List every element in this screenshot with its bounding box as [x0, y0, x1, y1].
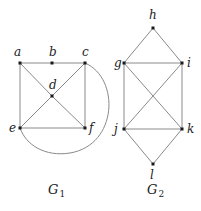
vertex-l: [152, 163, 155, 166]
labels-layer: abcdefG1hgijklG2: [9, 8, 194, 199]
edge-d-f: [52, 96, 85, 128]
vertex-c: [84, 62, 87, 65]
vertex-label-c: c: [82, 45, 89, 59]
edge-a-d: [20, 63, 52, 96]
vertex-j: [123, 128, 126, 131]
vertex-a: [19, 62, 22, 65]
graph-diagram: abcdefG1hgijklG2: [0, 0, 201, 211]
vertex-g: [123, 62, 126, 65]
edge-d-e: [20, 96, 52, 128]
vertex-label-h: h: [149, 8, 157, 22]
graph-label-1: G1: [48, 182, 65, 199]
vertex-e: [19, 127, 22, 130]
edge-h-g: [124, 28, 153, 63]
edge-k-l: [153, 129, 182, 164]
vertex-label-k: k: [187, 122, 194, 136]
vertex-label-e: e: [9, 121, 16, 135]
graph-label-2: G2: [147, 182, 164, 199]
vertices-layer: [19, 27, 184, 166]
vertex-h: [152, 27, 155, 30]
vertex-label-d: d: [49, 78, 57, 92]
edge-h-i: [153, 28, 182, 63]
vertex-label-l: l: [150, 168, 154, 182]
edge-c-d: [52, 63, 85, 96]
vertex-label-a: a: [14, 45, 21, 59]
edge-j-l: [124, 129, 153, 164]
vertex-label-f: f: [88, 121, 96, 135]
edges-layer: [20, 28, 182, 164]
vertex-i: [181, 62, 184, 65]
vertex-b: [51, 62, 54, 65]
vertex-label-j: j: [111, 122, 118, 136]
vertex-f: [84, 127, 87, 130]
vertex-k: [181, 128, 184, 131]
vertex-label-g: g: [114, 56, 122, 70]
vertex-d: [51, 95, 54, 98]
vertex-label-i: i: [187, 56, 191, 70]
vertex-label-b: b: [49, 45, 57, 59]
